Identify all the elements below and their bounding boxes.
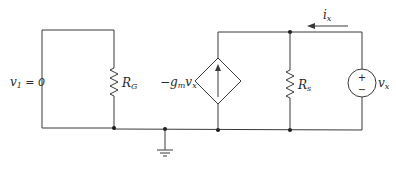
arrow-head-icon <box>215 64 221 71</box>
dependent-current-source <box>195 58 241 130</box>
current-ix-arrow <box>307 23 348 29</box>
input-loop <box>42 30 118 128</box>
input-loop-wire <box>42 30 114 128</box>
resistor-rs-icon <box>286 70 294 98</box>
minus-sign: − <box>358 84 366 95</box>
v1-label: v1 = 0 <box>10 75 45 90</box>
voltage-source-vx: + − <box>348 69 376 130</box>
ground-icon <box>157 129 173 156</box>
rs-label: Rs <box>297 78 311 93</box>
gm-label: −gmvx <box>160 75 197 90</box>
resistor-rs <box>286 32 294 130</box>
ground-rail <box>114 129 362 130</box>
junction-node <box>112 126 116 130</box>
ix-label: ix <box>323 8 332 23</box>
circuit-diagram: + − v1 = 0 RG −gmvx Rs ix vx <box>0 0 396 170</box>
resistor-rg-icon <box>110 68 118 96</box>
vx-label: vx <box>378 76 390 91</box>
rg-label: RG <box>121 76 138 91</box>
plus-sign: + <box>358 72 366 83</box>
